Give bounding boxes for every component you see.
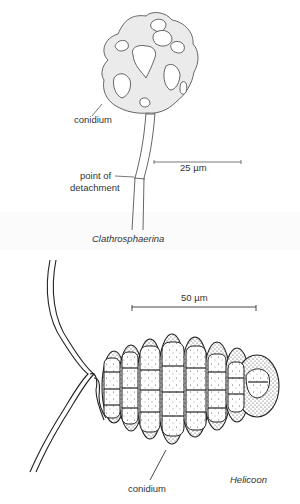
genus-label-helicoon: Helicoon — [230, 474, 267, 485]
conidium-label-helicoon: conidium — [128, 483, 166, 494]
scale-bar-label-50um: 50 µm — [181, 292, 208, 303]
panel-clathrosphaerina: conidium point of detachment 25 µm Clath… — [0, 0, 300, 250]
scale-bar-label-25um: 25 µm — [180, 162, 207, 173]
genus-label-clathrosphaerina: Clathrosphaerina — [92, 233, 164, 244]
conidium-label: conidium — [74, 114, 112, 125]
helicoon-illustration — [0, 250, 300, 504]
panel-helicoon: 50 µm conidium Helicoon — [0, 250, 300, 504]
detachment-label-line1: point of — [80, 170, 111, 181]
detachment-label-line2: detachment — [70, 182, 120, 193]
clathrosphaerina-illustration — [0, 0, 300, 250]
